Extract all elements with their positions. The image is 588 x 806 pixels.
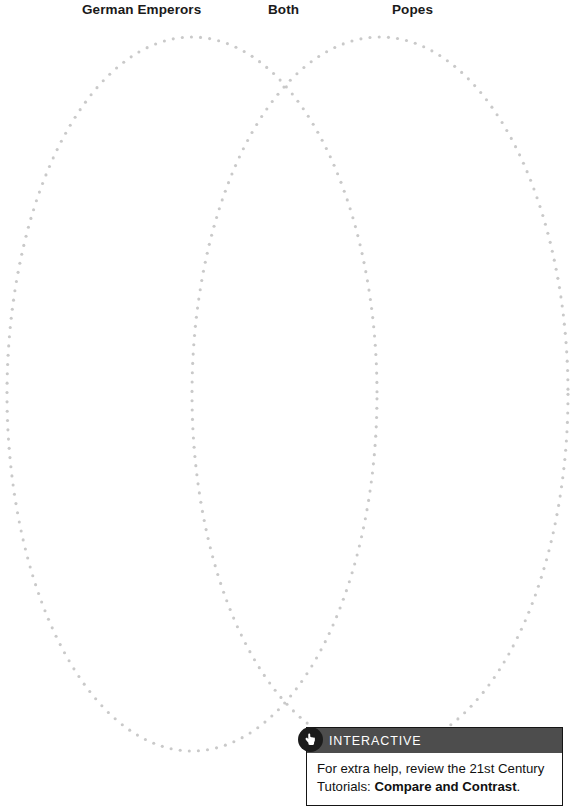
- callout-body-period: .: [517, 779, 521, 794]
- interactive-callout[interactable]: INTERACTIVE For extra help, review the 2…: [306, 727, 563, 806]
- pointing-hand-icon: [298, 727, 323, 752]
- callout-body: For extra help, review the 21st Century …: [307, 753, 562, 805]
- venn-diagram: [0, 0, 588, 806]
- callout-header: INTERACTIVE: [307, 728, 562, 753]
- callout-header-label: INTERACTIVE: [329, 734, 422, 748]
- callout-body-bold[interactable]: Compare and Contrast: [374, 779, 516, 794]
